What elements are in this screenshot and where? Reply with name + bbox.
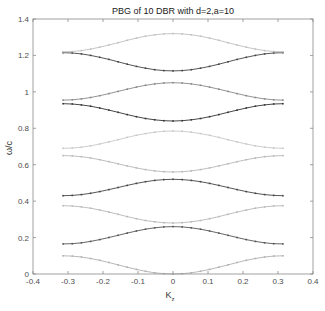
data-point-marker (273, 99, 275, 101)
data-point-marker (264, 98, 266, 100)
data-point-marker (255, 258, 257, 260)
data-point-marker (218, 165, 220, 167)
data-point-marker (227, 235, 229, 237)
data-point-marker (218, 232, 220, 234)
data-point-marker (145, 169, 147, 171)
data-point-marker (117, 264, 119, 266)
y-tick-label: 0.6 (18, 161, 30, 170)
data-point-marker (62, 99, 64, 101)
data-point-marker (264, 156, 266, 158)
data-point-marker (126, 216, 128, 218)
data-point-marker (273, 52, 275, 54)
band-line (63, 104, 283, 121)
chart-title: PBG of 10 DBR with d=2,a=10 (112, 6, 234, 16)
x-tick-label: 0.1 (202, 277, 214, 286)
band-line (63, 179, 283, 195)
data-point-marker (209, 230, 211, 232)
data-point-marker (227, 42, 229, 44)
data-point-marker (227, 61, 229, 63)
band-line (63, 34, 283, 52)
data-point-marker (72, 99, 74, 101)
data-point-marker (200, 118, 202, 120)
data-point-marker (163, 171, 165, 173)
data-point-marker (200, 228, 202, 230)
data-point-marker (273, 51, 275, 53)
x-axis-label: Kz (165, 290, 174, 302)
data-point-marker (236, 141, 238, 143)
data-point-marker (264, 50, 266, 52)
band-line (63, 131, 283, 148)
data-point-marker (200, 169, 202, 171)
data-point-marker (136, 66, 138, 68)
data-point-marker (99, 191, 101, 193)
y-tick-label: 0.2 (18, 234, 30, 243)
data-point-marker (136, 269, 138, 271)
data-point-marker (72, 103, 74, 105)
data-point-marker (172, 222, 174, 224)
data-point-marker (117, 139, 119, 141)
data-point-marker (273, 195, 275, 197)
data-point-marker (90, 105, 92, 107)
data-point-marker (246, 239, 248, 241)
data-point-marker (90, 157, 92, 159)
data-point-marker (227, 91, 229, 93)
data-point-marker (81, 156, 83, 158)
data-point-marker (145, 133, 147, 135)
y-tick-label: 1 (25, 88, 30, 97)
data-point-marker (246, 57, 248, 59)
data-point-marker (90, 193, 92, 195)
data-point-marker (117, 163, 119, 165)
data-point-marker (209, 86, 211, 88)
x-tick-label: -0.2 (96, 277, 110, 286)
x-tick-label: -0.3 (61, 277, 75, 286)
data-point-marker (209, 183, 211, 185)
data-point-marker (172, 179, 174, 181)
data-point-marker (181, 179, 183, 181)
data-point-marker (62, 195, 64, 197)
data-point-marker (90, 258, 92, 260)
data-point-marker (282, 99, 284, 101)
data-point-marker (108, 237, 110, 239)
data-point-marker (163, 179, 165, 181)
data-point-marker (264, 146, 266, 148)
data-point-marker (108, 93, 110, 95)
data-point-marker (99, 57, 101, 59)
data-point-marker (246, 95, 248, 97)
data-point-marker (154, 83, 156, 85)
y-axis-ticks: 00.20.40.60.811.21.4 (18, 15, 313, 279)
data-point-marker (72, 147, 74, 149)
data-point-marker (108, 211, 110, 213)
data-point-marker (246, 107, 248, 109)
data-point-marker (172, 120, 174, 122)
data-point-marker (108, 161, 110, 163)
data-point-marker (218, 185, 220, 187)
data-point-marker (181, 131, 183, 133)
data-point-marker (264, 206, 266, 208)
data-point-marker (227, 139, 229, 141)
data-point-marker (273, 255, 275, 257)
data-point-marker (81, 50, 83, 52)
data-point-marker (62, 155, 64, 157)
data-point-marker (62, 205, 64, 207)
data-point-marker (154, 180, 156, 182)
data-point-marker (172, 70, 174, 72)
data-point-marker (191, 180, 193, 182)
data-point-marker (172, 171, 174, 173)
data-point-marker (81, 53, 83, 55)
data-point-marker (282, 243, 284, 245)
data-point-marker (163, 131, 165, 133)
data-point-marker (273, 147, 275, 149)
data-point-marker (99, 239, 101, 241)
data-point-marker (200, 85, 202, 87)
data-point-marker (227, 214, 229, 216)
data-point-marker (126, 114, 128, 116)
data-point-marker (163, 226, 165, 228)
x-axis-ticks: -0.4-0.3-0.2-0.100.10.20.30.4 (26, 19, 319, 286)
data-point-marker (200, 181, 202, 183)
data-point-marker (246, 46, 248, 48)
data-point-marker (117, 214, 119, 216)
data-point-marker (136, 135, 138, 137)
data-point-marker (99, 143, 101, 145)
data-point-marker (145, 67, 147, 69)
data-point-marker (282, 103, 284, 105)
